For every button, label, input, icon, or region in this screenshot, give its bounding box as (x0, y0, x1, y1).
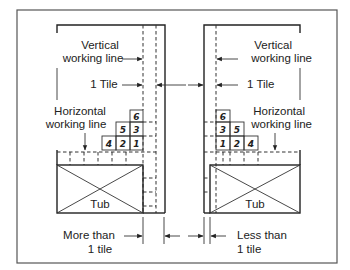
tile-6: 6 (220, 112, 226, 122)
tile-1: 1 (220, 139, 226, 149)
left-tiles: 6 5 3 4 2 1 (102, 110, 143, 150)
tile-3: 3 (220, 125, 226, 135)
tile-4: 4 (105, 139, 112, 149)
left-tile-label: 1 Tile (90, 78, 118, 90)
left-panel: Vertical working line 1 Tile Horizontal … (45, 25, 186, 255)
tile-5: 5 (120, 125, 126, 135)
right-tiles: 6 3 5 1 2 4 (216, 110, 258, 150)
left-tub: Tub (57, 165, 143, 213)
right-tub: Tub (210, 165, 300, 213)
tile-1: 1 (133, 139, 139, 149)
left-tub-label: Tub (90, 198, 109, 210)
right-horizontal-label-2: working line (250, 118, 312, 130)
left-bottom-label-1: More than (63, 229, 115, 241)
right-tub-label: Tub (245, 198, 264, 210)
right-tile-label: 1 Tile (247, 78, 275, 90)
left-horizontal-label-2: working line (45, 118, 107, 130)
right-bottom-label-2: 1 tile (237, 243, 261, 255)
right-bottom-label-1: Less than (237, 229, 287, 241)
right-vertical-label-2: working line (250, 52, 312, 64)
left-vertical-label-2: working line (62, 52, 124, 64)
tile-4: 4 (247, 139, 254, 149)
tile-3: 3 (133, 125, 139, 135)
left-bottom-label-2: 1 tile (88, 243, 112, 255)
left-horizontal-label-1: Horizontal (54, 105, 106, 117)
right-tile-grid (204, 122, 258, 192)
tile-2: 2 (120, 139, 126, 149)
left-vertical-label-1: Vertical (81, 39, 119, 51)
tile-layout-diagram: Vertical working line 1 Tile Horizontal … (0, 0, 350, 270)
tile-5: 5 (234, 125, 240, 135)
right-panel: Vertical working line 1 Tile Horizontal … (188, 25, 312, 255)
tile-6: 6 (133, 112, 139, 122)
tile-2: 2 (234, 139, 240, 149)
right-horizontal-label-1: Horizontal (253, 105, 305, 117)
right-vertical-label-1: Vertical (254, 39, 292, 51)
